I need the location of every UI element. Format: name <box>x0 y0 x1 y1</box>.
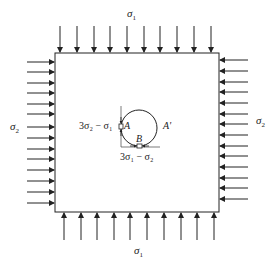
left-load-arrows <box>27 62 54 203</box>
point-a-label: A <box>124 120 130 131</box>
stress-at-b-label: 3σ₁ − σ₂ <box>120 151 153 162</box>
left-stress-label: σ2 <box>10 120 19 135</box>
right-load-arrows <box>220 60 248 199</box>
diagram-canvas <box>0 0 273 264</box>
right-stress-label: σ2 <box>256 114 265 129</box>
point-a-prime-label: A' <box>163 120 171 131</box>
top-load-arrows <box>60 26 211 52</box>
bottom-load-arrows <box>64 213 214 240</box>
top-stress-label: σ1 <box>127 7 136 22</box>
point-b-label: B <box>136 133 142 144</box>
stress-at-a-label: 3σ₂ − σ₁ <box>79 120 112 131</box>
bottom-stress-label: σ1 <box>134 244 143 259</box>
